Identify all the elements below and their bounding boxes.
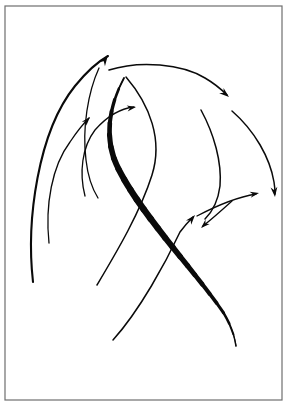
figure-frame (0, 0, 290, 413)
line-drawing-canvas (0, 0, 290, 413)
figure-root (0, 0, 290, 413)
